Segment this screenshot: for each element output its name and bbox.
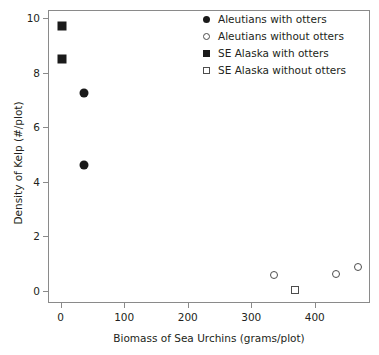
- data-point: [332, 270, 340, 278]
- y-axis-tick-label: 2: [33, 230, 40, 242]
- x-axis-tick: [251, 303, 252, 308]
- legend-item: SE Alaska without otters: [198, 63, 346, 77]
- data-point: [57, 54, 66, 63]
- legend-label: Aleutians with otters: [218, 13, 327, 25]
- legend-marker-glyph: [203, 50, 210, 57]
- data-point: [79, 88, 88, 97]
- data-point: [291, 286, 299, 294]
- data-point: [57, 21, 66, 30]
- legend: Aleutians with ottersAleutians without o…: [198, 12, 346, 77]
- legend-item: Aleutians with otters: [198, 12, 346, 26]
- legend-marker-glyph: [203, 67, 210, 74]
- y-axis-tick-label: 4: [33, 176, 40, 188]
- y-axis-tick-label: 6: [33, 121, 40, 133]
- data-point: [79, 160, 88, 169]
- x-axis-tick-label: 200: [178, 311, 198, 323]
- x-axis-tick-label: 0: [57, 311, 64, 323]
- data-point: [270, 271, 278, 279]
- data-point: [354, 263, 362, 271]
- x-axis-tick: [315, 303, 316, 308]
- legend-item: Aleutians without otters: [198, 29, 346, 43]
- y-axis-tick: [43, 127, 48, 128]
- legend-marker-square-open-icon: [198, 67, 214, 74]
- y-axis-tick: [43, 291, 48, 292]
- x-axis-tick-label: 300: [241, 311, 261, 323]
- x-axis-tick: [124, 303, 125, 308]
- y-axis-tick-label: 8: [33, 67, 40, 79]
- y-axis-title: Density of Kelp (#/plot): [12, 63, 24, 263]
- y-axis-tick-label: 10: [27, 12, 40, 24]
- y-axis-tick: [43, 182, 48, 183]
- y-axis-tick: [43, 236, 48, 237]
- legend-item: SE Alaska with otters: [198, 46, 346, 60]
- x-axis-tick: [61, 303, 62, 308]
- x-axis-title: Biomass of Sea Urchins (grams/plot): [48, 332, 370, 344]
- legend-marker-square-filled-icon: [198, 50, 214, 57]
- legend-marker-circle-filled-icon: [198, 16, 214, 23]
- y-axis-tick-label: 0: [33, 285, 40, 297]
- legend-marker-glyph: [203, 33, 210, 40]
- legend-label: SE Alaska without otters: [218, 64, 346, 76]
- legend-label: Aleutians without otters: [218, 30, 344, 42]
- legend-marker-glyph: [203, 16, 210, 23]
- x-axis-tick-label: 400: [305, 311, 325, 323]
- y-axis-tick: [43, 18, 48, 19]
- legend-label: SE Alaska with otters: [218, 47, 329, 59]
- x-axis-tick-label: 100: [114, 311, 134, 323]
- x-axis-tick: [188, 303, 189, 308]
- scatter-plot-figure: Density of Kelp (#/plot) Biomass of Sea …: [0, 0, 379, 355]
- legend-marker-circle-open-icon: [198, 33, 214, 40]
- y-axis-tick: [43, 73, 48, 74]
